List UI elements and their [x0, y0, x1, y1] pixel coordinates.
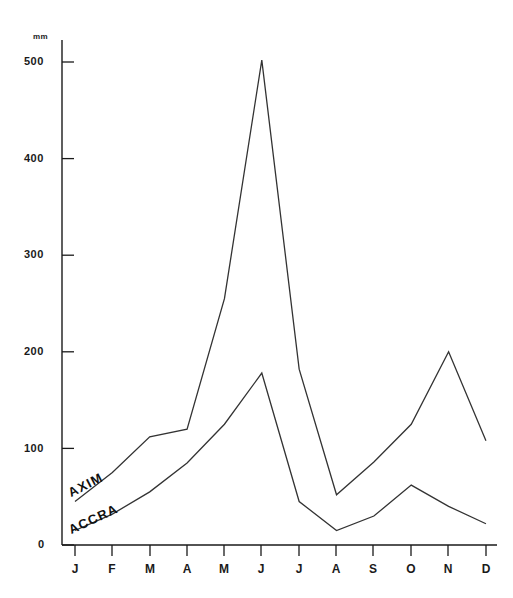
y-tick-label-100: 100	[24, 443, 44, 454]
x-tick-label-apr: A	[177, 563, 197, 575]
y-tick-label-500: 500	[24, 56, 44, 67]
x-tick-label-feb: F	[102, 563, 122, 575]
x-tick-label-nov: N	[438, 563, 458, 575]
y-tick-label-300: 300	[24, 249, 44, 260]
y-tick-marks	[62, 62, 74, 545]
x-tick-label-oct: O	[401, 563, 421, 575]
x-tick-label-aug: A	[326, 563, 346, 575]
y-tick-label-400: 400	[24, 153, 44, 164]
x-tick-label-jun: J	[251, 563, 271, 575]
y-axis-unit-label: mm	[33, 33, 48, 41]
y-tick-label-0: 0	[38, 539, 45, 550]
x-tick-marks	[75, 545, 486, 556]
rainfall-line-chart: mm 500 400 300 200 100 0 J F M A M J J A…	[0, 0, 513, 598]
x-tick-label-sep: S	[363, 563, 383, 575]
y-tick-label-200: 200	[24, 346, 44, 357]
x-tick-label-dec: D	[476, 563, 496, 575]
x-tick-label-may: M	[214, 563, 234, 575]
chart-canvas	[0, 0, 513, 598]
series-line-accra	[75, 373, 486, 530]
x-tick-label-jul: J	[289, 563, 309, 575]
x-tick-label-jan: J	[65, 563, 85, 575]
x-tick-label-mar: M	[140, 563, 160, 575]
